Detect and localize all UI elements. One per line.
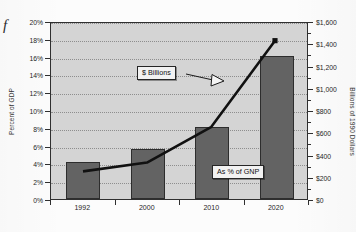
line-series: [51, 23, 307, 199]
y-axis-right-tick-label: $200: [316, 174, 331, 181]
y-axis-right-minor-tick: [308, 100, 311, 101]
y-axis-right-minor-tick: [308, 122, 311, 123]
y-axis-right-tick-mark: [308, 178, 313, 179]
y-axis-left-tick-label: 14%: [29, 72, 43, 79]
x-axis-tick-mark: [308, 200, 309, 205]
x-axis-tick-mark: [244, 200, 245, 205]
y-axis-right-tick-mark: [308, 67, 313, 68]
x-axis-tick-mark: [50, 200, 51, 205]
y-axis-right-tick-mark: [308, 133, 313, 134]
y-axis-right-minor-tick: [308, 78, 311, 79]
y-axis-left-tick-label: 18%: [29, 36, 43, 43]
callout-percent-gnp: As % of GNP: [212, 165, 264, 179]
y-axis-right-minor-tick: [308, 167, 311, 168]
x-axis-tick-label: 1992: [74, 204, 90, 211]
callout-billions: $ Billions: [137, 66, 176, 80]
figure-marker: f: [3, 18, 7, 33]
y-axis-right-minor-tick: [308, 189, 311, 190]
x-axis-tick-label: 2000: [139, 204, 155, 211]
y-axis-left-tick-label: 10%: [29, 108, 43, 115]
y-axis-right-tick-mark: [308, 89, 313, 90]
y-axis-left-tick-label: 20%: [29, 19, 43, 26]
y-axis-left-tick-label: 0%: [33, 197, 43, 204]
y-axis-right-minor-tick: [308, 55, 311, 56]
x-axis-tick-label: 2010: [203, 204, 219, 211]
y-axis-left-tick-label: 8%: [33, 125, 43, 132]
y-axis-left-tick-label: 4%: [33, 161, 43, 168]
y-axis-right-tick-label: $1,200: [316, 63, 337, 70]
y-axis-left-title: Percent of GDP: [8, 80, 15, 144]
y-axis-right-tick-label: $1,400: [316, 41, 337, 48]
y-axis-right-tick-label: $600: [316, 130, 331, 137]
y-axis-left-tick-label: 2%: [33, 179, 43, 186]
x-axis-tick-label: 2020: [268, 204, 284, 211]
y-axis-right-minor-tick: [308, 33, 311, 34]
line-path: [83, 41, 275, 172]
plot-area: [50, 22, 308, 200]
y-axis-right-tick-label: $400: [316, 152, 331, 159]
x-axis-tick-mark: [115, 200, 116, 205]
x-axis-tick-mark: [179, 200, 180, 205]
y-axis-right-tick-mark: [308, 22, 313, 23]
y-axis-right-tick-label: $1,000: [316, 85, 337, 92]
line-marker: [272, 38, 277, 43]
y-axis-right-tick-mark: [308, 111, 313, 112]
y-axis-left-tick-label: 16%: [29, 54, 43, 61]
y-axis-right-tick-mark: [308, 156, 313, 157]
y-axis-right-title: Billions of 1990 Dollars: [349, 76, 356, 168]
figure-container: f Percent of GDP Billions of 1990 Dollar…: [0, 0, 356, 232]
y-axis-right-tick-label: $800: [316, 108, 331, 115]
y-axis-left-tick-label: 12%: [29, 90, 43, 97]
y-axis-right-minor-tick: [308, 144, 311, 145]
y-axis-right-tick-mark: [308, 44, 313, 45]
y-axis-right-tick-label: $1,600: [316, 19, 337, 26]
y-axis-left-tick-label: 6%: [33, 143, 43, 150]
y-axis-right-tick-label: $0: [316, 197, 324, 204]
